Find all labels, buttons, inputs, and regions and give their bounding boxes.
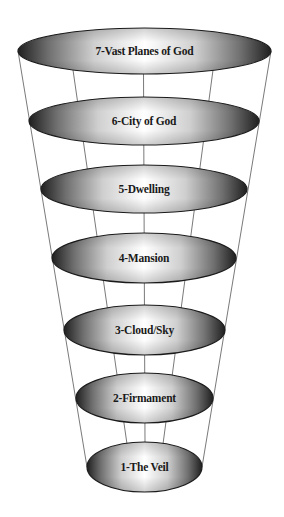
layer-label: 5-Dwelling <box>118 183 169 196</box>
layer-label: 1-The Veil <box>120 461 168 473</box>
layer-label: 3-Cloud/Sky <box>115 324 175 337</box>
layer-1-the-veil: 1-The Veil <box>87 442 202 492</box>
layer-label: 7-Vast Planes of God <box>95 45 194 57</box>
layer-2-firmament: 2-Firmament <box>76 373 213 423</box>
heavens-funnel-diagram: 7-Vast Planes of God 6-City of God 5-Dwe… <box>0 0 284 517</box>
layer-4-mansion: 4-Mansion <box>52 233 236 283</box>
layer-label: 2-Firmament <box>113 392 176 404</box>
layer-label: 6-City of God <box>112 115 177 128</box>
layer-7-vast-planes-of-god: 7-Vast Planes of God <box>18 28 271 74</box>
layer-3-cloud-sky: 3-Cloud/Sky <box>64 305 225 355</box>
layer-5-dwelling: 5-Dwelling <box>41 165 247 213</box>
layer-6-city-of-god: 6-City of God <box>29 97 259 145</box>
layer-label: 4-Mansion <box>119 252 170 264</box>
